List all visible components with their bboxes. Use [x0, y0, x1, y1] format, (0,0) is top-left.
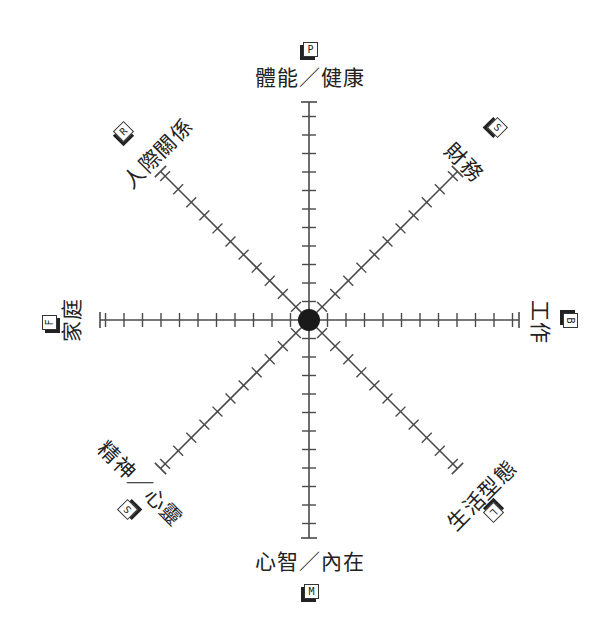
axis-physical	[301, 102, 317, 320]
axis-label-family: 家庭	[62, 298, 83, 342]
badge-mind-icon: M	[304, 584, 319, 599]
center-hub	[298, 309, 320, 331]
axis-label-physical: 體能／健康	[255, 68, 365, 89]
axis-spirit	[155, 320, 309, 474]
badge-physical-icon: P	[303, 42, 318, 57]
axis-lifestyle	[309, 320, 463, 474]
axis-finance	[309, 166, 463, 320]
axis-relationships	[155, 166, 309, 320]
badge-work-icon: B	[563, 313, 578, 328]
axis-mind	[301, 320, 317, 538]
axis-label-work: 工作	[529, 300, 550, 344]
axis-label-mind: 心智／內在	[255, 552, 365, 573]
badge-family-icon: F	[42, 315, 57, 330]
life-wheel-diagram	[0, 0, 614, 625]
axis-work	[309, 312, 519, 328]
axis-family	[100, 312, 309, 328]
